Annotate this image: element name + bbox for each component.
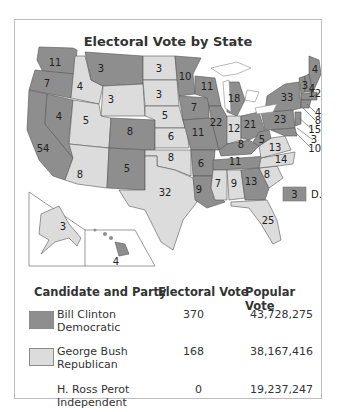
svg-text:3: 3 <box>156 89 162 100</box>
svg-text:D.C.: D.C. <box>311 189 321 200</box>
svg-text:9: 9 <box>231 178 237 189</box>
popular-vote: 43,728,275 <box>250 308 313 321</box>
col-header-electoral: Electoral Vote <box>158 285 249 299</box>
svg-text:11: 11 <box>49 57 62 68</box>
svg-text:7: 7 <box>215 178 221 189</box>
svg-text:12: 12 <box>228 123 241 134</box>
svg-text:3: 3 <box>108 94 114 105</box>
svg-text:11: 11 <box>229 156 242 167</box>
svg-text:8: 8 <box>238 139 244 150</box>
svg-text:6: 6 <box>168 131 174 142</box>
table-row: H. Ross Perot Independent <box>57 383 129 409</box>
svg-text:13: 13 <box>269 142 282 153</box>
legend-swatch-democratic <box>29 311 54 329</box>
svg-text:14: 14 <box>275 154 288 165</box>
electoral-vote: 168 <box>183 345 204 358</box>
svg-text:3: 3 <box>302 80 308 91</box>
svg-text:5: 5 <box>162 110 168 121</box>
svg-text:11: 11 <box>201 81 214 92</box>
popular-vote: 38,167,416 <box>250 345 313 358</box>
legend-swatch-republican <box>29 348 54 366</box>
svg-text:8: 8 <box>127 126 133 137</box>
svg-text:10: 10 <box>179 71 192 82</box>
svg-text:4: 4 <box>312 64 318 75</box>
svg-text:10: 10 <box>308 143 321 154</box>
svg-text:3: 3 <box>291 189 297 200</box>
svg-text:18: 18 <box>228 93 241 104</box>
svg-text:5: 5 <box>259 134 265 145</box>
svg-text:7: 7 <box>191 102 197 113</box>
svg-text:4: 4 <box>56 111 62 122</box>
svg-text:6: 6 <box>198 158 204 169</box>
svg-text:13: 13 <box>245 176 258 187</box>
svg-text:5: 5 <box>124 163 130 174</box>
svg-text:32: 32 <box>159 187 172 198</box>
svg-text:3: 3 <box>156 63 162 74</box>
col-header-candidate: Candidate and Party <box>34 285 167 299</box>
svg-text:5: 5 <box>83 115 89 126</box>
svg-text:54: 54 <box>37 143 50 154</box>
svg-text:23: 23 <box>274 114 287 125</box>
svg-text:8: 8 <box>168 152 174 163</box>
popular-vote: 19,237,247 <box>250 383 313 396</box>
svg-text:8: 8 <box>77 169 83 180</box>
svg-text:4: 4 <box>113 256 119 267</box>
svg-text:21: 21 <box>244 119 257 130</box>
state-arizona <box>65 144 109 188</box>
svg-text:9: 9 <box>196 184 202 195</box>
svg-text:22: 22 <box>210 117 223 128</box>
svg-text:8: 8 <box>264 169 270 180</box>
state-montana <box>85 52 143 86</box>
electoral-vote: 370 <box>183 308 204 321</box>
svg-text:25: 25 <box>262 215 275 226</box>
svg-text:7: 7 <box>44 78 50 89</box>
svg-text:11: 11 <box>192 127 205 138</box>
svg-text:4: 4 <box>77 81 83 92</box>
us-map: 3 D.C. 11754 443 358 853 356 83210 <box>15 20 321 270</box>
svg-text:33: 33 <box>281 92 294 103</box>
figure-frame: Electoral Vote by State <box>14 19 322 399</box>
electoral-vote: 0 <box>195 383 202 396</box>
table-row: George Bush Republican <box>57 345 128 371</box>
svg-text:12: 12 <box>308 88 321 99</box>
table-row: Bill Clinton Democratic <box>57 308 120 334</box>
svg-text:3: 3 <box>98 63 104 74</box>
state-hawaii <box>115 242 129 256</box>
svg-text:3: 3 <box>60 221 66 232</box>
